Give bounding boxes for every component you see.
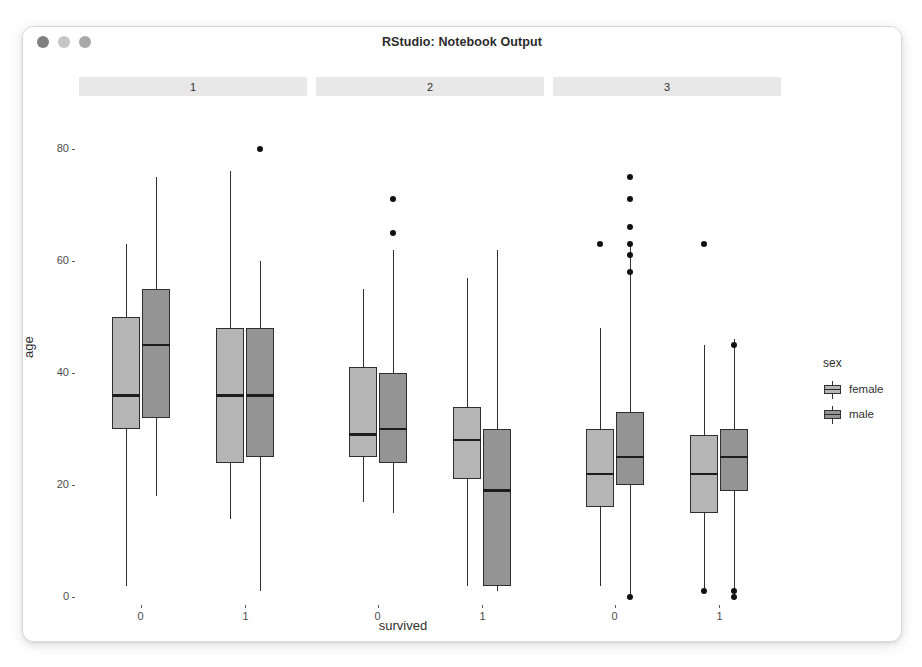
ggplot-canvas: 123020406080age010101survivedsexfemalema… xyxy=(23,58,901,641)
y-tick-label-80: 80 xyxy=(29,142,69,154)
legend-key-male xyxy=(823,405,842,424)
rstudio-notebook-window: RStudio: Notebook Output 123020406080age… xyxy=(22,26,902,642)
boxplot-outlier xyxy=(627,241,633,247)
legend-key-median xyxy=(824,389,841,391)
y-tick-mark-40 xyxy=(72,373,75,374)
box-whisker-upper xyxy=(230,171,231,328)
boxplot-outlier xyxy=(627,594,633,600)
box-whisker-lower xyxy=(704,513,705,591)
boxplot-median-male xyxy=(142,344,170,346)
boxplot-median-female xyxy=(216,394,244,396)
box-whisker-lower xyxy=(230,463,231,519)
boxplot-box-male xyxy=(142,289,170,418)
box-whisker-upper xyxy=(467,278,468,407)
box-whisker-lower xyxy=(734,491,735,592)
box-whisker-lower xyxy=(393,463,394,513)
window-title: RStudio: Notebook Output xyxy=(23,27,901,58)
box-whisker-upper xyxy=(126,244,127,317)
box-whisker-upper xyxy=(393,250,394,373)
boxplot-outlier xyxy=(597,241,603,247)
boxplot-box-female xyxy=(586,429,614,507)
boxplot-outlier xyxy=(627,269,633,275)
x-tick-mark xyxy=(482,605,483,608)
box-whisker-lower xyxy=(600,507,601,585)
facet-strip-label: 3 xyxy=(664,81,670,93)
y-tick-mark-60 xyxy=(72,261,75,262)
box-whisker-lower xyxy=(630,485,631,597)
box-whisker-lower xyxy=(363,457,364,502)
legend-item-male[interactable]: male xyxy=(823,403,901,425)
window-titlebar[interactable]: RStudio: Notebook Output xyxy=(23,27,901,59)
boxplot-outlier xyxy=(627,174,633,180)
legend-key-median xyxy=(824,414,841,416)
box-whisker-upper xyxy=(704,345,705,435)
boxplot-box-male xyxy=(483,429,511,586)
boxplot-outlier xyxy=(701,241,707,247)
y-tick-mark-20 xyxy=(72,485,75,486)
boxplot-box-male xyxy=(379,373,407,463)
x-tick-mark xyxy=(719,605,720,608)
boxplot-box-female xyxy=(349,367,377,457)
facet-strip-label: 1 xyxy=(190,81,196,93)
boxplot-outlier xyxy=(627,196,633,202)
boxplot-outlier xyxy=(627,252,633,258)
y-tick-label-20: 20 xyxy=(29,478,69,490)
boxplot-box-female xyxy=(112,317,140,429)
box-whisker-lower xyxy=(497,586,498,592)
box-whisker-upper xyxy=(497,250,498,429)
legend-title: sex xyxy=(823,356,901,370)
facet-strip-3: 3 xyxy=(553,77,781,96)
boxplot-median-female xyxy=(112,394,140,396)
legend-key-female xyxy=(823,380,842,399)
legend-key-whisker-lower xyxy=(832,394,833,399)
y-tick-mark-80 xyxy=(72,149,75,150)
legend: sexfemalemale xyxy=(823,356,901,428)
x-axis-title: survived xyxy=(23,618,783,633)
box-whisker-lower xyxy=(260,457,261,591)
legend-label-male: male xyxy=(849,408,874,420)
boxplot-outlier xyxy=(390,196,396,202)
box-whisker-upper xyxy=(734,339,735,429)
plot-area: 123020406080age010101survivedsexfemalema… xyxy=(23,58,901,641)
box-whisker-lower xyxy=(467,479,468,585)
boxplot-median-female xyxy=(349,433,377,435)
box-whisker-upper xyxy=(260,261,261,328)
boxplot-outlier xyxy=(390,230,396,236)
boxplot-outlier xyxy=(731,342,737,348)
boxplot-median-male xyxy=(616,456,644,458)
facet-strip-label: 2 xyxy=(427,81,433,93)
x-tick-mark xyxy=(378,605,379,608)
boxplot-outlier xyxy=(701,588,707,594)
boxplot-outlier xyxy=(731,594,737,600)
legend-key-whisker-lower xyxy=(832,419,833,424)
boxplot-median-male xyxy=(379,428,407,430)
boxplot-box-male xyxy=(246,328,274,457)
boxplot-outlier xyxy=(627,224,633,230)
boxplot-outlier xyxy=(257,146,263,152)
screenshot-root: RStudio: Notebook Output 123020406080age… xyxy=(0,0,922,667)
boxplot-box-male xyxy=(616,412,644,485)
boxplot-median-male xyxy=(483,489,511,491)
boxplot-box-male xyxy=(720,429,748,491)
x-tick-mark xyxy=(615,605,616,608)
legend-item-female[interactable]: female xyxy=(823,378,901,400)
y-tick-mark-0 xyxy=(72,597,75,598)
boxplot-median-male xyxy=(246,394,274,396)
boxplot-median-female xyxy=(586,473,614,475)
y-tick-label-60: 60 xyxy=(29,254,69,266)
facet-strip-1: 1 xyxy=(79,77,307,96)
y-tick-label-0: 0 xyxy=(29,590,69,602)
box-whisker-upper xyxy=(156,177,157,289)
boxplot-median-female xyxy=(453,439,481,441)
y-tick-label-40: 40 xyxy=(29,366,69,378)
box-whisker-lower xyxy=(126,429,127,586)
legend-label-female: female xyxy=(849,383,884,395)
x-tick-mark xyxy=(141,605,142,608)
y-axis-title: age xyxy=(22,336,36,358)
box-whisker-upper xyxy=(363,289,364,367)
boxplot-box-female xyxy=(453,407,481,480)
x-tick-mark xyxy=(245,605,246,608)
boxplot-median-female xyxy=(690,473,718,475)
box-whisker-upper xyxy=(600,328,601,429)
box-whisker-lower xyxy=(156,418,157,496)
